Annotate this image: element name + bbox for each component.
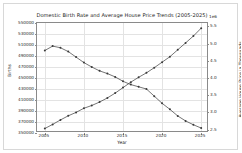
series-marker [169, 108, 171, 110]
series-marker [44, 50, 46, 52]
y-left-tickmark [35, 89, 37, 90]
y-left-tickmark [35, 122, 37, 123]
series-marker [177, 49, 179, 51]
series-marker [91, 105, 93, 107]
y-right-ticklabel: 4.0 [210, 75, 217, 80]
y-left-ticklabel: 470000 [18, 64, 34, 69]
series-marker [200, 27, 202, 29]
series-svg [37, 23, 209, 133]
series-marker [83, 62, 85, 64]
series-marker [52, 123, 54, 125]
plot-area [36, 22, 208, 132]
y-right-ticklabel: 5.5 [210, 23, 217, 28]
series-marker [67, 115, 69, 117]
y-right-tickmark [207, 61, 209, 62]
series-marker [169, 56, 171, 58]
series-marker [59, 119, 61, 121]
y-left-tickmark [35, 23, 37, 24]
series-marker [130, 81, 132, 83]
y-left-ticklabel: 410000 [18, 97, 34, 102]
x-ticklabel: 2010 [78, 133, 89, 138]
series-marker [153, 67, 155, 69]
right-axis-offset-label: 1e6 [209, 14, 217, 19]
series-marker [44, 128, 46, 130]
series-marker [106, 97, 108, 99]
y-right-ticklabel: 2.5 [210, 126, 217, 131]
series-marker [185, 120, 187, 122]
series-marker [83, 107, 85, 109]
series-marker [153, 95, 155, 97]
chart-figure: Domestic Birth Rate and Average House Pr… [0, 0, 241, 153]
series-marker [145, 72, 147, 74]
series-marker [138, 76, 140, 78]
series-marker [177, 115, 179, 117]
y-left-tickmark [35, 45, 37, 46]
y-left-ticklabel: 490000 [18, 53, 34, 58]
y-axis-right-ticklabels: 2.53.03.54.04.55.05.5 [210, 22, 232, 132]
series-marker [130, 84, 132, 86]
y-right-tickmark [207, 78, 209, 79]
series-marker [200, 127, 202, 129]
series-marker [99, 70, 101, 72]
y-right-ticklabel: 5.0 [210, 40, 217, 45]
series-marker [138, 86, 140, 88]
y-left-ticklabel: 430000 [18, 86, 34, 91]
y-left-tickmark [35, 56, 37, 57]
y-right-tickmark [207, 95, 209, 96]
series-marker [122, 80, 124, 82]
y-axis-left-title: Births [7, 51, 12, 91]
y-left-tickmark [35, 78, 37, 79]
y-left-ticklabel: 530000 [18, 31, 34, 36]
series-marker [75, 111, 77, 113]
series-marker [145, 88, 147, 90]
series-marker [185, 42, 187, 44]
series-marker [67, 51, 69, 53]
y-right-tickmark [207, 44, 209, 45]
series-marker [192, 35, 194, 37]
x-ticklabel: 2020 [156, 133, 167, 138]
y-left-tickmark [35, 34, 37, 35]
y-axis-right-title: Average House Price in Thousands [238, 42, 242, 118]
y-left-tickmark [35, 100, 37, 101]
x-ticklabel: 2005 [38, 133, 49, 138]
y-left-ticklabel: 390000 [18, 108, 34, 113]
y-right-ticklabel: 3.0 [210, 109, 217, 114]
x-ticklabel: 2015 [117, 133, 128, 138]
series-line [45, 28, 201, 128]
y-left-ticklabel: 450000 [18, 75, 34, 80]
y-right-ticklabel: 3.5 [210, 92, 217, 97]
y-left-ticklabel: 370000 [18, 119, 34, 124]
series-marker [161, 61, 163, 63]
y-left-ticklabel: 550000 [18, 20, 34, 25]
x-axis-title: Year [36, 140, 208, 145]
series-marker [91, 66, 93, 68]
series-marker [114, 92, 116, 94]
y-right-tickmark [207, 112, 209, 113]
data-layer [37, 23, 207, 131]
series-marker [59, 47, 61, 49]
y-right-tickmark [207, 130, 209, 131]
series-marker [192, 124, 194, 126]
y-right-tickmark [207, 26, 209, 27]
series-marker [52, 45, 54, 47]
series-marker [75, 56, 77, 58]
y-left-tickmark [35, 67, 37, 68]
y-right-ticklabel: 4.5 [210, 57, 217, 62]
series-marker [161, 102, 163, 104]
y-left-ticklabel: 510000 [18, 42, 34, 47]
y-left-tickmark [35, 111, 37, 112]
series-marker [99, 101, 101, 103]
y-left-ticklabel: 350000 [18, 130, 34, 135]
series-marker [106, 73, 108, 75]
x-ticklabel: 2025 [195, 133, 206, 138]
chart-title: Domestic Birth Rate and Average House Pr… [36, 12, 208, 19]
series-marker [122, 87, 124, 89]
series-marker [114, 76, 116, 78]
